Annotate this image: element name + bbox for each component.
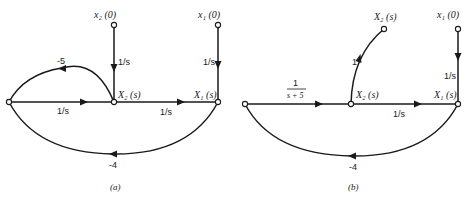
label-x1-init: x₁ (0) [197,9,221,21]
gain-x1-init-to-X1-b: 1/s [444,71,457,81]
node-x2-init-a [111,22,116,27]
caption-a: (a) [110,182,121,192]
gain-feedback-4-b: -4 [349,162,357,172]
node-X2-output-b [381,26,386,31]
gain-left-to-X2-numerator: 1 [293,78,298,88]
label-x2-init: x₂ (0) [93,9,117,21]
label-X2-b: X₂ (s) [355,89,379,101]
arrow-left-icon [58,65,66,72]
node-input-b [242,101,247,106]
edge-X1-to-left-feedback-4 [9,102,218,154]
label-X1-b: X₁ (s) [433,89,457,101]
gain-feedback-5: -5 [57,56,65,66]
edge-X1-to-left-feedback-4-b [245,104,458,156]
node-X1-b [455,101,460,106]
edge-X2-to-left-feedback-5 [9,66,114,102]
panel-b: X₂ (s) x₁ (0) 1 1/s 1 s + 5 X₂ (s) X₁ (s… [242,9,461,192]
arrow-left-icon [348,153,356,160]
arrow-left-icon [109,151,117,158]
node-X1-a [215,99,220,104]
gain-X2-to-X1-b: 1/s [393,109,406,119]
gain-x1-init-to-X1: 1/s [203,57,216,67]
node-X2-b [348,101,353,106]
arrow-down-icon [215,61,222,69]
label-x1-init-b: x₁ (0) [436,9,460,21]
arrow-right-icon [177,99,185,106]
node-input-a [6,99,11,104]
gain-X2-to-output: 1 [352,57,357,67]
label-X2-output: X₂ (s) [373,11,397,23]
label-X1-a: X₁ (s) [193,89,217,101]
panel-a: x₂ (0) x₁ (0) 1/s 1/s -5 X₂ (s) X₁ (s) 1… [6,9,221,192]
gain-left-to-X2: 1/s [57,106,70,116]
label-X2-a: X₂ (s) [117,89,141,101]
node-X2-a [111,99,116,104]
gain-x2-init-to-X2: 1/s [118,57,131,67]
arrow-down-icon [455,53,462,61]
arrow-right-icon [315,101,323,108]
gain-X2-to-X1: 1/s [160,107,173,117]
arrow-right-icon [80,99,88,106]
gain-left-to-X2-denominator: s + 5 [287,91,304,100]
node-x1-init-b [455,26,460,31]
gain-feedback-4: -4 [109,160,117,170]
arrow-down-icon [111,64,118,72]
node-x1-init-a [215,22,220,27]
arrow-right-icon [414,101,422,108]
caption-b: (b) [348,182,359,192]
signal-flow-graph-figure: x₂ (0) x₁ (0) 1/s 1/s -5 X₂ (s) X₁ (s) 1… [0,0,465,200]
